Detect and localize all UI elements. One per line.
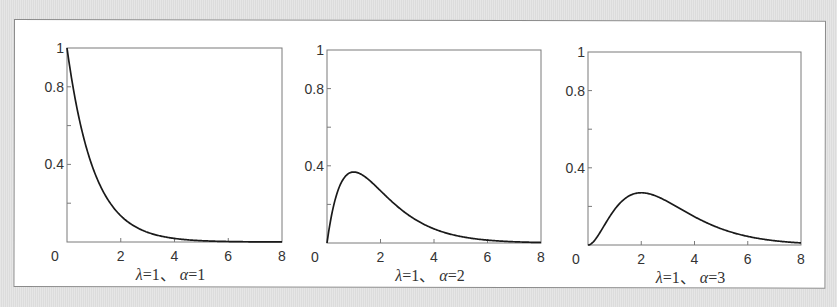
pdf-curve (588, 193, 801, 245)
y-tick-label: 0.8 (45, 79, 65, 95)
y-tick-label: 0.8 (566, 83, 586, 99)
lambda-value: =1、 (663, 269, 696, 286)
gamma-pdf-figure: 0.40.8102468λ=1、α=10.40.8102468λ=1、α=20.… (0, 0, 837, 307)
plot-frame (327, 50, 541, 243)
chart-2: 0.40.8102468λ=1、α=2 (305, 42, 546, 284)
lambda-value: =1、 (143, 266, 176, 283)
y-tick-label: 0.4 (305, 158, 325, 174)
alpha-value: =2 (448, 267, 465, 284)
x-tick-label: 8 (537, 249, 545, 265)
lambda-symbol: λ (394, 267, 402, 284)
y-tick-label: 0.4 (566, 160, 586, 176)
x-tick-label: 4 (430, 249, 438, 265)
chart-caption: λ=1、α=3 (655, 269, 725, 286)
x-tick-label: 0 (572, 251, 580, 267)
y-tick-label: 1 (577, 44, 585, 60)
y-tick-label: 1 (316, 42, 324, 58)
chart-3: 0.40.8102468λ=1、α=3 (566, 44, 806, 286)
x-tick-label: 6 (744, 251, 752, 267)
alpha-value: =3 (708, 269, 725, 286)
x-tick-label: 4 (691, 251, 699, 267)
y-tick-label: 1 (56, 40, 64, 56)
x-tick-label: 2 (117, 248, 125, 264)
y-tick-label: 0.4 (45, 156, 65, 172)
x-tick-label: 4 (171, 248, 179, 264)
lambda-symbol: λ (135, 266, 143, 283)
pdf-curve (327, 172, 541, 243)
x-tick-label: 6 (484, 249, 492, 265)
lambda-symbol: λ (655, 269, 663, 286)
chart-1: 0.40.8102468λ=1、α=1 (45, 40, 287, 283)
x-tick-label: 2 (637, 251, 645, 267)
plot-frame (67, 48, 282, 242)
x-tick-label: 8 (278, 248, 286, 264)
x-tick-label: 8 (797, 251, 805, 267)
y-tick-label: 0.8 (305, 81, 325, 97)
x-tick-label: 0 (51, 248, 59, 264)
chart-caption: λ=1、α=1 (135, 266, 205, 283)
pdf-curve (67, 48, 282, 242)
chart-caption: λ=1、α=2 (394, 267, 464, 284)
x-tick-label: 6 (224, 248, 232, 264)
lambda-value: =1、 (402, 267, 435, 284)
x-tick-label: 0 (311, 249, 319, 265)
alpha-value: =1 (188, 266, 205, 283)
x-tick-label: 2 (377, 249, 385, 265)
